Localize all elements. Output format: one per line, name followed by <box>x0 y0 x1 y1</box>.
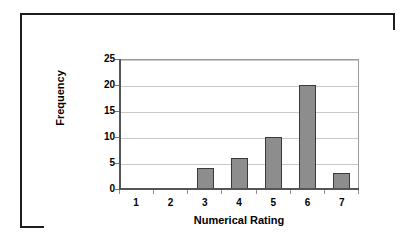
bar-rating-5[interactable] <box>265 137 282 189</box>
x-tickmark-0 <box>119 190 120 194</box>
bar-slot-4 <box>222 60 256 189</box>
x-axis-line <box>119 188 359 190</box>
y-tickmark-5 <box>115 163 119 164</box>
x-ticklabel-7: 7 <box>325 196 359 212</box>
y-tickmark-20 <box>115 85 119 86</box>
bar-rating-6[interactable] <box>299 85 316 189</box>
chart-canvas: 25 20 15 10 5 0 1 2 3 4 5 <box>44 30 415 241</box>
x-ticklabel-5: 5 <box>256 196 290 212</box>
x-ticklabel-1: 1 <box>119 196 153 212</box>
x-axis-title: Numerical Rating <box>119 214 359 226</box>
bars-layer <box>120 60 358 189</box>
y-tickmark-10 <box>115 137 119 138</box>
x-tickmark-5 <box>290 190 291 194</box>
x-tickmark-6 <box>324 190 325 194</box>
bar-slot-3 <box>188 60 222 189</box>
figure-frame: 25 20 15 10 5 0 1 2 3 4 5 <box>20 13 395 228</box>
x-tickmark-2 <box>187 190 188 194</box>
x-ticklabel-4: 4 <box>222 196 256 212</box>
bar-slot-7 <box>324 60 358 189</box>
y-tickmark-25 <box>115 59 119 60</box>
x-ticklabel-2: 2 <box>153 196 187 212</box>
bar-slot-6 <box>290 60 324 189</box>
x-tickmark-1 <box>153 190 154 194</box>
bar-rating-7[interactable] <box>333 173 350 189</box>
y-tickmark-15 <box>115 111 119 112</box>
bar-rating-4[interactable] <box>231 158 248 189</box>
y-ticklabel-20: 20 <box>82 79 115 91</box>
y-axis-line <box>119 59 121 190</box>
y-ticklabel-5: 5 <box>82 157 115 169</box>
y-axis-ticklabels: 25 20 15 10 5 0 <box>82 52 115 196</box>
x-tickmark-4 <box>256 190 257 194</box>
y-ticklabel-10: 10 <box>82 131 115 143</box>
bar-slot-1 <box>120 60 154 189</box>
bar-rating-3[interactable] <box>197 168 214 189</box>
x-ticklabel-6: 6 <box>290 196 324 212</box>
bar-slot-5 <box>256 60 290 189</box>
x-axis-ticklabels: 1 2 3 4 5 6 7 <box>119 196 359 212</box>
x-ticklabel-3: 3 <box>188 196 222 212</box>
chart-screenshot: 25 20 15 10 5 0 1 2 3 4 5 <box>0 0 416 241</box>
y-ticklabel-15: 15 <box>82 105 115 117</box>
y-ticklabel-0: 0 <box>82 183 115 195</box>
y-axis-title: Frequency <box>54 58 66 138</box>
x-tickmark-7 <box>358 190 359 194</box>
bar-slot-2 <box>154 60 188 189</box>
y-ticklabel-25: 25 <box>82 53 115 65</box>
x-tickmark-3 <box>221 190 222 194</box>
